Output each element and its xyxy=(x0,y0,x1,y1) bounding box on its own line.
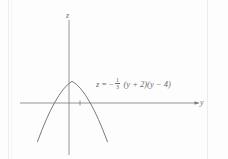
equation-factor-two: (y − 4) xyxy=(147,80,171,89)
figure-container: z y z = − 1 3 (y + 2) (y − 4) xyxy=(0,0,228,159)
y-axis-label: y xyxy=(200,99,204,107)
equation-minus-sign: − xyxy=(109,80,114,89)
equation-fraction: 1 3 xyxy=(115,77,120,91)
equation-factor-one: (y + 2) xyxy=(123,80,147,89)
fraction-denominator: 3 xyxy=(115,84,120,90)
equation-equals: = xyxy=(102,80,107,89)
equation-lhs: z xyxy=(96,80,99,89)
y-axis-arrowhead xyxy=(195,101,200,105)
equation-annotation: z = − 1 3 (y + 2) (y − 4) xyxy=(96,77,171,91)
z-axis-label: z xyxy=(66,12,69,20)
